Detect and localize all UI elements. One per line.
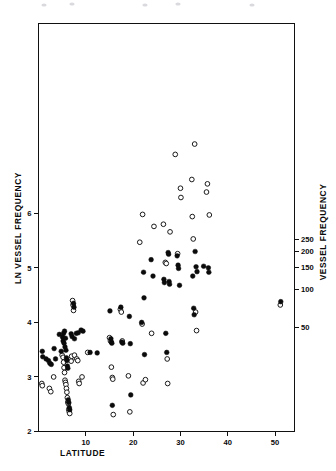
data-point-filled (195, 269, 200, 274)
data-point-filled (142, 296, 147, 301)
data-point-filled (81, 329, 86, 334)
data-point-filled (72, 305, 77, 310)
data-point-open (204, 190, 209, 195)
data-point-filled (72, 336, 77, 341)
data-point-open (205, 182, 210, 187)
data-point-open (194, 328, 199, 333)
data-point-open (168, 230, 173, 235)
x-axis-ticks: 1020304050 (82, 432, 280, 448)
data-point-open (137, 240, 142, 245)
data-point-filled (120, 341, 125, 346)
data-point-filled (164, 350, 169, 355)
y-right-axis-title: VESSEL FREQUENCY (318, 184, 328, 281)
x-axis-title: LATITUDE (60, 448, 105, 458)
data-point-open (126, 374, 131, 379)
data-point-filled (206, 266, 211, 271)
data-point-open (119, 310, 124, 315)
y-left-tick-label: 6 (27, 209, 31, 218)
data-point-filled (167, 282, 172, 287)
data-point-filled (194, 264, 199, 269)
data-point-filled (49, 362, 54, 367)
data-point-filled (64, 348, 69, 353)
data-point-filled (128, 393, 133, 398)
data-point-filled (207, 270, 212, 275)
scan-speck (175, 2, 180, 5)
data-point-open (77, 381, 82, 386)
data-point-filled (40, 349, 45, 354)
data-point-open (62, 370, 67, 375)
x-tick-label: 50 (271, 438, 279, 447)
data-point-open (40, 383, 45, 388)
data-point-filled (65, 366, 70, 371)
x-tick-label: 30 (176, 438, 184, 447)
y-right-axis-ticks: 50100150200250 (295, 235, 314, 332)
y-left-axis-title: LN VESSEL FREQUENCY (13, 172, 23, 284)
y-right-tick-label: 150 (301, 263, 314, 272)
series-filled-circles (40, 249, 283, 412)
plot-frame (39, 24, 295, 432)
data-point-filled (201, 264, 206, 269)
data-point-filled (53, 357, 58, 362)
data-point-open (111, 412, 116, 417)
data-point-filled (149, 257, 154, 262)
data-point-filled (65, 358, 70, 363)
data-point-filled (110, 403, 115, 408)
data-point-filled (127, 314, 132, 319)
data-point-open (190, 214, 195, 219)
data-point-filled (193, 249, 198, 254)
data-point-open (161, 222, 166, 227)
data-point-filled (95, 351, 100, 356)
data-point-open (173, 152, 178, 157)
data-point-filled (62, 329, 67, 334)
series-open-circles (39, 142, 282, 417)
data-point-open (51, 375, 56, 380)
y-right-tick-label: 200 (301, 247, 314, 256)
data-point-filled (108, 309, 113, 314)
data-point-filled (177, 283, 182, 288)
data-point-filled (142, 352, 147, 357)
data-point-filled (176, 266, 181, 271)
data-point-filled (151, 274, 156, 279)
data-point-open (69, 359, 74, 364)
data-point-filled (191, 306, 196, 311)
data-point-open (48, 389, 53, 394)
data-point-open (207, 213, 212, 218)
data-point-open (109, 365, 114, 370)
data-point-filled (128, 341, 133, 346)
data-point-filled (110, 341, 115, 346)
data-point-filled (175, 254, 180, 259)
x-tick-label: 20 (129, 438, 137, 447)
data-point-open (165, 381, 170, 386)
scan-speck (69, 2, 74, 5)
scan-speck (41, 3, 46, 6)
y-left-tick-label: 4 (27, 318, 32, 327)
data-point-filled (59, 349, 64, 354)
data-point-open (165, 357, 170, 362)
data-point-filled (190, 274, 195, 279)
data-point-open (80, 375, 85, 380)
data-point-open (110, 377, 115, 382)
data-point-open (65, 390, 70, 395)
data-point-open (179, 195, 184, 200)
data-point-open (189, 177, 194, 182)
y-left-axis-ticks: 23456 (27, 209, 38, 436)
y-left-tick-label: 3 (27, 373, 31, 382)
data-point-open (143, 377, 148, 382)
data-point-open (149, 331, 154, 336)
data-point-open (140, 212, 145, 217)
y-left-tick-label: 5 (27, 264, 32, 273)
y-left-tick-label: 2 (27, 427, 31, 436)
x-tick-label: 10 (82, 438, 90, 447)
scan-speck (249, 3, 254, 6)
data-point-open (127, 410, 132, 415)
scan-speck (142, 3, 147, 6)
data-point-open (191, 237, 196, 242)
data-point-open (152, 224, 157, 229)
data-point-filled (63, 336, 68, 341)
figure-container: 1020304050 23456 50100150200250 LATITUDE… (0, 0, 336, 471)
data-point-filled (139, 320, 144, 325)
data-point-filled (67, 407, 72, 412)
y-right-tick-label: 100 (301, 285, 314, 294)
scatter-plot: 1020304050 23456 50100150200250 LATITUDE… (0, 0, 336, 471)
data-point-open (164, 261, 169, 266)
